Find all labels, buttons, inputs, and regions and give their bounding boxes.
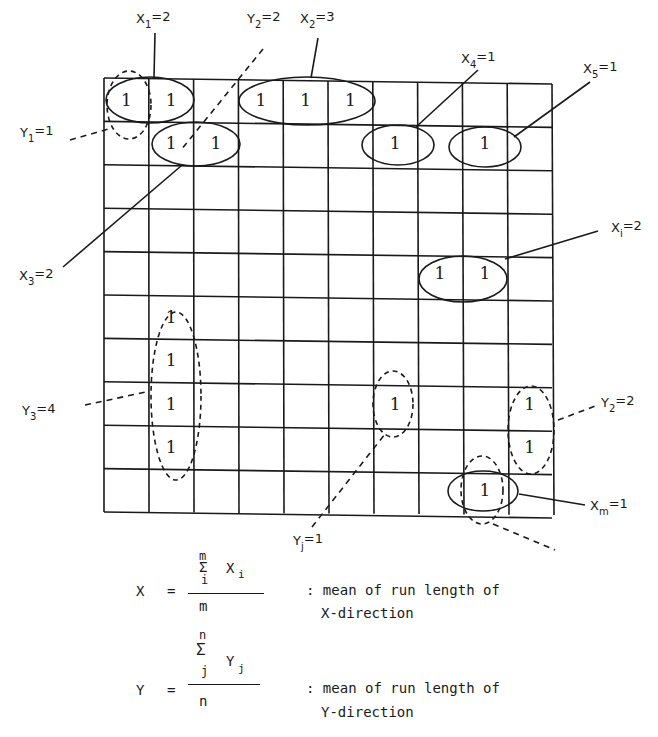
formula-x-sum-bottom: i — [201, 573, 208, 587]
label-yj: Yj=1 — [292, 531, 323, 552]
grid-cell-one: 1 — [524, 394, 535, 414]
leader-y1 — [70, 128, 112, 140]
formula-x-term-sub: i — [238, 568, 245, 581]
grid-cell-one: 1 — [345, 90, 356, 110]
grid-cell-one: 1 — [435, 263, 446, 283]
grid-cell-one: 1 — [166, 394, 177, 414]
grid-cell-one: 1 — [211, 133, 222, 153]
grid-cell-one: 1 — [479, 263, 490, 283]
label-xm: Xm=1 — [590, 496, 628, 517]
leader-y3 — [85, 392, 146, 405]
label-xi: Xi=2 — [611, 218, 642, 239]
leader-xm — [519, 494, 585, 505]
grid-vline — [418, 82, 419, 514]
grid-cell-one: 1 — [479, 480, 490, 500]
label-x5: X5=1 — [583, 59, 617, 80]
grid-cell-one: 1 — [166, 350, 177, 370]
grid-cell-one: 1 — [166, 437, 177, 457]
formula-y-sigma: Σ — [196, 640, 206, 659]
grid-cell-one: 1 — [166, 90, 177, 110]
formula-y-fraction-bar — [188, 684, 260, 685]
run-labels: X1=2Y2=2X2=3X4=1X5=1Y1=1X3=2Xi=2Y3=4Y2=2… — [19, 9, 642, 552]
formula-x-lhs: X — [136, 583, 144, 599]
formula-y-eq: = — [167, 682, 175, 698]
grid-cell-one: 1 — [300, 90, 311, 110]
label-x3: X3=2 — [19, 266, 53, 287]
label-x4: X4=1 — [461, 49, 495, 70]
run-length-grid-diagram: 1111111111111111111 — [0, 0, 658, 560]
leader-x2 — [311, 38, 318, 78]
grid-cell-one: 1 — [255, 90, 266, 110]
formula-y-term-sub: j — [238, 662, 245, 675]
formula-y-desc-1: : mean of run length of — [306, 680, 500, 696]
leader-x1 — [154, 33, 155, 78]
formula-y-desc-2: Y-direction — [321, 704, 414, 720]
run-groupings — [63, 33, 598, 550]
grid-cell-one: 1 — [524, 437, 535, 457]
leader-xi — [505, 231, 598, 259]
formula-y-sum-bottom: j — [201, 664, 208, 678]
formula-x-eq: = — [167, 583, 175, 599]
label-x1: X1=2 — [136, 9, 170, 30]
formula-y-denominator: n — [199, 693, 207, 709]
grid-cell-one: 1 — [166, 133, 177, 153]
grid-cell-one: 1 — [479, 133, 490, 153]
formula-x-desc-1: : mean of run length of — [306, 582, 500, 598]
leader-x4 — [416, 70, 478, 127]
formula-x-desc-2: X-direction — [321, 605, 414, 621]
leader-y2-right — [558, 405, 598, 420]
formula-x-fraction-bar — [188, 593, 264, 594]
formula-y-term: Y — [226, 653, 234, 669]
label-y3: Y3=4 — [21, 401, 56, 422]
grid-cell-one: 1 — [390, 394, 401, 414]
leader-ym — [493, 524, 555, 550]
label-y2-top: Y2=2 — [246, 9, 281, 30]
label-y1: Y1=1 — [19, 123, 54, 144]
formula-x-denominator: m — [199, 598, 207, 614]
grid-cell-one: 1 — [390, 133, 401, 153]
label-x2: X2=3 — [300, 9, 334, 30]
grid-hline — [104, 512, 552, 518]
formula-y-lhs: Y — [136, 682, 144, 698]
grid-cell-one: 1 — [121, 90, 132, 110]
label-y2-right: Y2=2 — [600, 393, 635, 414]
grid-vline — [507, 83, 509, 514]
formula-x-term: X — [226, 560, 234, 576]
grid-vline — [462, 83, 464, 515]
grid-vline — [552, 84, 554, 515]
